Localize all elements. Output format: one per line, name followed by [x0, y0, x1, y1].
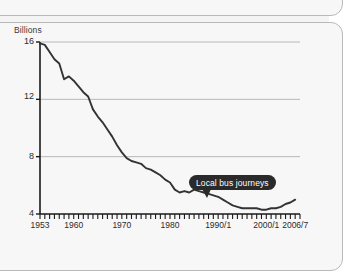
x-tick-label-2006-7: 2006/7: [282, 220, 308, 230]
annotation-callout-text: Local bus journeys: [196, 178, 269, 188]
x-tick-label-1980: 1980: [161, 220, 180, 230]
y-tick-label-8: 8: [8, 151, 34, 161]
page-panel-top-border: [0, 0, 343, 16]
x-tick-label-1953: 1953: [31, 220, 50, 230]
plot-area: 16 12 8 4 19531960197019801990/12000/120…: [0, 20, 329, 238]
x-tick-label-1970: 1970: [112, 220, 131, 230]
y-tick-label-16: 16: [8, 36, 34, 46]
chart-svg: [0, 20, 329, 238]
y-tick-label-12: 12: [8, 91, 34, 101]
x-tick-label-2000-1: 2000/1: [253, 220, 279, 230]
x-tick-label-1990-1: 1990/1: [205, 220, 231, 230]
y-tick-label-4: 4: [8, 208, 34, 218]
gridlines: [40, 42, 300, 157]
annotation-callout-tail: [202, 189, 211, 198]
annotation-callout-local-bus-journeys: Local bus journeys: [189, 175, 276, 190]
line-chart: Billions 16 12 8 4 19531960197019801990/…: [0, 20, 329, 238]
x-tick-label-1960: 1960: [64, 220, 83, 230]
